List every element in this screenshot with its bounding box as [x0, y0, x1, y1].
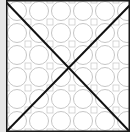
board-tile[interactable]: [6, 0, 130, 132]
tile-graphic: [6, 0, 130, 132]
